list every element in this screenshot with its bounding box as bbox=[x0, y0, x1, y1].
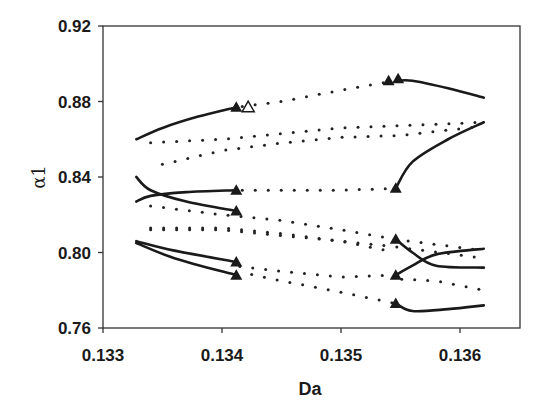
x-axis: 0.1330.1340.1350.136 bbox=[82, 328, 482, 365]
bifurcation-point-filled-icon bbox=[230, 101, 242, 112]
stable-branch-line bbox=[396, 122, 484, 188]
unstable-branch-dots bbox=[400, 278, 480, 291]
bifurcation-chart: 0.920.880.840.800.76 0.1330.1340.1350.13… bbox=[0, 0, 535, 413]
y-tick-label: 0.84 bbox=[58, 168, 92, 187]
unstable-branch-dots bbox=[250, 273, 393, 304]
stable-branch-line bbox=[398, 80, 484, 98]
x-tick-label: 0.136 bbox=[439, 346, 482, 365]
bifurcation-point-filled-icon bbox=[392, 73, 404, 84]
unstable-branch-dots bbox=[149, 121, 476, 144]
series-layer bbox=[136, 80, 483, 311]
stable-branch-line bbox=[136, 241, 236, 262]
y-tick-label: 0.80 bbox=[58, 244, 91, 263]
unstable-branch-dots bbox=[241, 81, 385, 108]
plot-area-border bbox=[103, 26, 520, 328]
x-axis-title: Da bbox=[298, 379, 322, 399]
stable-branch-line bbox=[136, 107, 236, 139]
y-tick-label: 0.92 bbox=[58, 17, 91, 36]
plot-frame bbox=[103, 26, 520, 328]
unstable-branch-dots bbox=[241, 187, 387, 192]
unstable-branch-dots bbox=[161, 126, 473, 166]
bifurcation-point-open-icon bbox=[242, 101, 254, 112]
y-axis: 0.920.880.840.800.76 bbox=[58, 17, 103, 338]
x-tick-label: 0.135 bbox=[320, 346, 363, 365]
bifurcation-point-filled-icon bbox=[383, 75, 395, 86]
x-tick-label: 0.134 bbox=[201, 346, 244, 365]
x-tick-label: 0.133 bbox=[82, 346, 125, 365]
bifurcation-point-filled-icon bbox=[390, 269, 402, 280]
y-tick-label: 0.76 bbox=[58, 319, 91, 338]
stable-branch-line bbox=[396, 303, 484, 311]
unstable-branch-dots bbox=[238, 265, 396, 279]
bifurcation-point-filled-icon bbox=[390, 182, 402, 193]
y-tick-label: 0.88 bbox=[58, 93, 91, 112]
unstable-branch-dots bbox=[149, 205, 474, 251]
unstable-branch-dots bbox=[149, 226, 384, 251]
y-axis-title: α1 bbox=[28, 165, 49, 189]
bifurcation-point-filled-icon bbox=[390, 233, 402, 244]
stable-branch-line bbox=[396, 249, 484, 275]
